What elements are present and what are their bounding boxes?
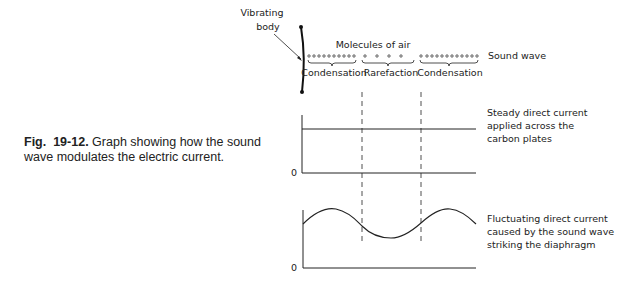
vibrating-body-label-1: Vibrating (240, 7, 283, 18)
graph-steady-current: 0 Steady direct current applied across t… (291, 107, 588, 178)
sound-wave-diagram: Vibrating body Molecules of air Sound wa… (0, 0, 619, 287)
vibrating-body (301, 27, 304, 92)
sound-wave-label: Sound wave (488, 50, 546, 61)
region-braces (308, 60, 478, 66)
vibrating-body-label-2: body (256, 21, 280, 32)
graph-fluctuating-current: 0 Fluctuating direct current caused by t… (291, 209, 614, 273)
fluctuating-current-wave (303, 209, 476, 238)
molecules-label: Molecules of air (336, 39, 411, 50)
region-condensation-1: Condensation (301, 67, 366, 78)
graph2-label-1: Fluctuating direct current (487, 213, 608, 224)
body-tip (299, 25, 303, 29)
arrow-head-icon (297, 56, 302, 61)
graph1-label-1: Steady direct current (487, 107, 588, 118)
pointer-arrow (274, 34, 301, 59)
air-molecules (308, 55, 478, 57)
zero-label: 0 (291, 167, 297, 178)
graph2-label-3: striking the diaphragm (487, 239, 596, 250)
graph1-label-3: carbon plates (487, 133, 552, 144)
graph1-label-2: applied across the (487, 120, 574, 131)
graph2-label-2: caused by the sound wave (487, 226, 614, 237)
region-rarefaction: Rarefaction (364, 67, 418, 78)
zero-label: 0 (291, 262, 297, 273)
body-tip (300, 90, 304, 94)
region-condensation-2: Condensation (417, 67, 482, 78)
